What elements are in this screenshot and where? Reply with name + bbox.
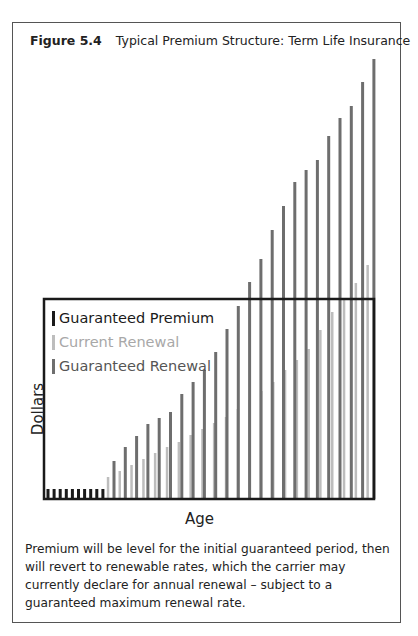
- bar-guaranteed-premium: [83, 489, 86, 499]
- bar-guaranteed-renewal: [339, 118, 342, 499]
- legend-swatch: [52, 311, 55, 326]
- bar-guaranteed-premium: [101, 489, 104, 499]
- bar-guaranteed-renewal: [316, 160, 319, 499]
- bar-current-renewal: [178, 442, 181, 499]
- bar-guaranteed-renewal: [192, 382, 195, 499]
- bar-guaranteed-renewal: [237, 306, 240, 499]
- bar-guaranteed-renewal: [180, 394, 183, 499]
- legend-item-current-renewal: Current Renewal: [52, 330, 214, 354]
- bar-guaranteed-renewal: [203, 370, 206, 499]
- legend-label: Guaranteed Renewal: [59, 354, 211, 378]
- bar-guaranteed-renewal: [113, 461, 116, 499]
- bar-guaranteed-renewal: [293, 182, 296, 499]
- bar-current-renewal: [130, 465, 133, 499]
- bar-current-renewal: [166, 447, 169, 499]
- bar-current-renewal: [107, 477, 110, 499]
- bar-guaranteed-renewal: [158, 418, 161, 499]
- bar-guaranteed-renewal: [169, 412, 172, 499]
- bar-guaranteed-renewal: [271, 230, 274, 499]
- bar-guaranteed-premium: [59, 489, 62, 499]
- bar-guaranteed-renewal: [350, 106, 353, 499]
- bar-current-renewal: [355, 283, 358, 499]
- legend: Guaranteed Premium Current Renewal Guara…: [52, 306, 214, 378]
- legend-item-guaranteed-renewal: Guaranteed Renewal: [52, 354, 214, 378]
- bar-guaranteed-renewal: [259, 259, 262, 499]
- bar-guaranteed-renewal: [248, 282, 251, 499]
- bar-guaranteed-renewal: [327, 136, 330, 499]
- y-axis-label: Dollars: [29, 379, 47, 439]
- bar-guaranteed-renewal: [146, 424, 149, 499]
- bars-group: [47, 59, 376, 499]
- figure-caption: Premium will be level for the initial gu…: [25, 540, 390, 612]
- bar-guaranteed-premium: [71, 489, 74, 499]
- bar-guaranteed-premium: [47, 489, 50, 499]
- bar-guaranteed-renewal: [226, 329, 229, 499]
- bar-current-renewal: [331, 312, 334, 499]
- legend-swatch: [52, 335, 55, 350]
- legend-label: Current Renewal: [59, 330, 179, 354]
- legend-item-guaranteed-premium: Guaranteed Premium: [52, 306, 214, 330]
- bar-guaranteed-premium: [95, 489, 98, 499]
- bar-guaranteed-premium: [53, 489, 56, 499]
- bar-guaranteed-renewal: [214, 352, 217, 499]
- bar-guaranteed-premium: [89, 489, 92, 499]
- bar-current-renewal: [154, 453, 157, 499]
- bar-guaranteed-renewal: [282, 206, 285, 499]
- bar-guaranteed-renewal: [135, 436, 138, 499]
- x-axis-label: Age: [185, 510, 214, 528]
- bar-guaranteed-renewal: [361, 82, 364, 499]
- bar-guaranteed-renewal: [305, 170, 308, 499]
- legend-label: Guaranteed Premium: [59, 306, 214, 330]
- bar-current-renewal: [189, 435, 192, 499]
- bar-current-renewal: [343, 300, 346, 499]
- bar-current-renewal: [119, 471, 122, 499]
- bar-guaranteed-premium: [65, 489, 68, 499]
- bar-guaranteed-renewal: [124, 447, 127, 499]
- bar-current-renewal: [142, 459, 145, 499]
- legend-swatch: [52, 359, 55, 374]
- bar-guaranteed-premium: [77, 489, 80, 499]
- bar-current-renewal: [307, 349, 310, 499]
- bar-current-renewal: [319, 330, 322, 499]
